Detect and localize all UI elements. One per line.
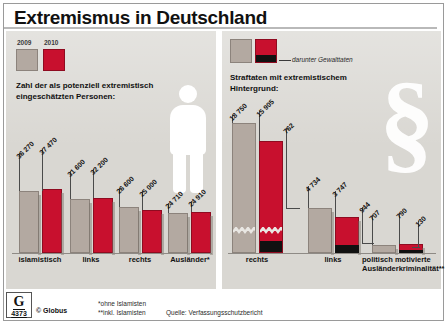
value-label: 3 747 bbox=[331, 181, 348, 198]
category-label-rechts: rechts bbox=[115, 255, 165, 264]
title-bar: Extremismus in Deutschland bbox=[4, 4, 437, 28]
right-panel: § darunter Gewalttaten Straftaten mit ex… bbox=[222, 31, 441, 289]
bar-2010-links bbox=[93, 198, 113, 253]
left-chart-baseline bbox=[12, 253, 212, 254]
page-title: Extremismus in Deutschland bbox=[14, 7, 267, 29]
value-label: 4 734 bbox=[304, 176, 321, 193]
bar-2009-auslaender bbox=[168, 213, 188, 253]
category-label-auslaenderkriminalitaet: politisch motivierte Ausländerkriminalit… bbox=[362, 255, 440, 273]
footnote-2: **inkl. Islamisten bbox=[98, 309, 146, 316]
left-chart: 36 270 37 470 islamistisch 31 600 32 200… bbox=[6, 31, 216, 289]
axis-break-zigzag bbox=[260, 227, 282, 234]
value-label: 707 bbox=[368, 209, 381, 222]
category-label-rechts: rechts bbox=[228, 255, 286, 264]
value-label: 37 470 bbox=[38, 136, 58, 156]
leader-line bbox=[286, 208, 300, 209]
copyright-label: © Globus bbox=[36, 307, 67, 314]
value-label: 762 bbox=[282, 122, 295, 135]
bar-2009-rechts bbox=[232, 123, 256, 253]
value-label: 790 bbox=[395, 207, 408, 220]
bar-gewalttaten-rechts bbox=[259, 241, 283, 253]
value-label: 944 bbox=[358, 201, 371, 214]
value-label: 26 600 bbox=[115, 175, 135, 195]
category-label-islamistisch: islamistisch bbox=[14, 255, 66, 264]
value-label: 18 750 bbox=[228, 102, 248, 122]
title-divider bbox=[4, 27, 437, 29]
bar-2009-auslaenderkriminalitaet bbox=[372, 245, 396, 253]
category-label-links: links bbox=[306, 255, 360, 264]
footer: G 4373 © Globus *ohne Islamisten **inkl.… bbox=[6, 292, 441, 320]
value-label: 32 200 bbox=[89, 156, 109, 176]
value-label: 31 600 bbox=[66, 158, 86, 178]
bar-2010-auslaender bbox=[191, 212, 211, 253]
source-label: Quelle: Verfassungsschutzbericht bbox=[166, 309, 262, 316]
value-label: 25 000 bbox=[138, 178, 158, 198]
leader-line bbox=[412, 247, 420, 248]
bar-2009-rechts bbox=[119, 207, 139, 253]
globus-logo-letter: G bbox=[7, 294, 31, 310]
bar-gewalttaten-links bbox=[335, 245, 359, 253]
bar-2010-links bbox=[335, 217, 359, 253]
axis-break-zigzag bbox=[233, 227, 255, 234]
bar-2009-islamistisch bbox=[19, 191, 39, 253]
bar-2009-links bbox=[70, 199, 90, 253]
value-label: 130 bbox=[414, 215, 427, 228]
value-label: 24 710 bbox=[164, 190, 184, 210]
bar-2009-links bbox=[308, 208, 332, 253]
leader-line bbox=[286, 128, 287, 208]
right-chart: 18 750 15 905 762 rechts 4 734 3 747 944… bbox=[222, 31, 441, 289]
category-label-links: links bbox=[66, 255, 116, 264]
infographic-poster: Extremismus in Deutschland 2009 2010 Zah… bbox=[0, 0, 447, 324]
bar-2010-islamistisch bbox=[42, 189, 62, 253]
value-label: 15 905 bbox=[255, 98, 275, 118]
left-panel: 2009 2010 Zahl der als potenziell extrem… bbox=[6, 31, 216, 289]
value-label: 24 910 bbox=[187, 188, 207, 208]
category-label-auslaender: Ausländer* bbox=[162, 255, 218, 264]
bar-2010-rechts bbox=[259, 141, 283, 253]
footnote-1: *ohne Islamisten bbox=[98, 300, 146, 307]
value-label: 36 270 bbox=[15, 140, 35, 160]
globus-logo: G 4373 bbox=[6, 292, 32, 318]
bar-2010-auslaenderkriminalitaet bbox=[399, 244, 423, 253]
bar-2010-rechts bbox=[142, 210, 162, 253]
right-chart-baseline bbox=[228, 253, 436, 254]
globus-logo-number: 4373 bbox=[7, 310, 31, 317]
